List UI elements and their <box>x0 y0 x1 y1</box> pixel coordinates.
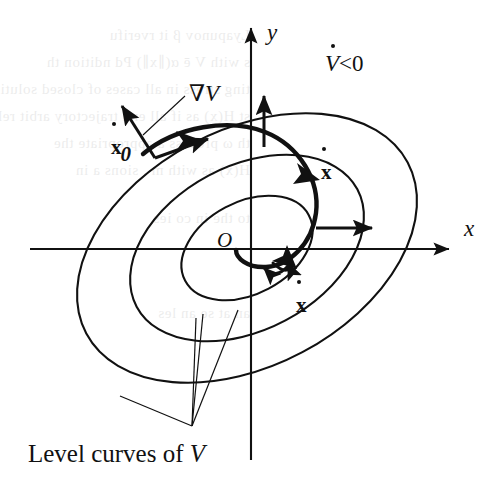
caption-symbol: V <box>190 440 205 467</box>
y-axis-label: y <box>267 20 277 46</box>
x-dot-symbol: x <box>321 160 332 185</box>
figure-canvas <box>0 0 503 493</box>
vdot-negative-label: V<0 <box>325 51 364 77</box>
gradient-label-symbol: V <box>205 81 219 106</box>
figure-caption: Level curves of V <box>28 440 205 468</box>
initial-state-label: x0 <box>111 135 131 167</box>
x-dot-symbol: x <box>111 135 122 160</box>
gradient-label: ∇V <box>189 80 219 107</box>
velocity-label-upper: x <box>321 160 332 185</box>
caption-text: Level curves of <box>28 440 190 467</box>
x-dot-symbol: x <box>296 293 307 318</box>
nabla-icon: ∇ <box>189 81 205 106</box>
velocity-label-lower: x <box>296 293 307 318</box>
vdot-relation: <0 <box>339 51 363 76</box>
leader-line-to-middle-curve <box>192 310 238 426</box>
leader-line-to-outer-curve <box>120 396 192 426</box>
vdot-symbol: V <box>325 51 339 77</box>
origin-label: O <box>217 228 232 253</box>
initial-state-subscript: 0 <box>121 142 132 166</box>
caption-leader-lines <box>120 310 238 426</box>
gradient-label-leader-line <box>143 96 185 135</box>
x-axis-label: x <box>464 216 474 242</box>
lyapunov-level-curve-figure: Lyapunov β it rverifu s with V ē α(∥x∥) … <box>0 0 503 493</box>
coordinate-axes <box>30 28 449 460</box>
vectors-at-initial-point <box>122 106 208 158</box>
